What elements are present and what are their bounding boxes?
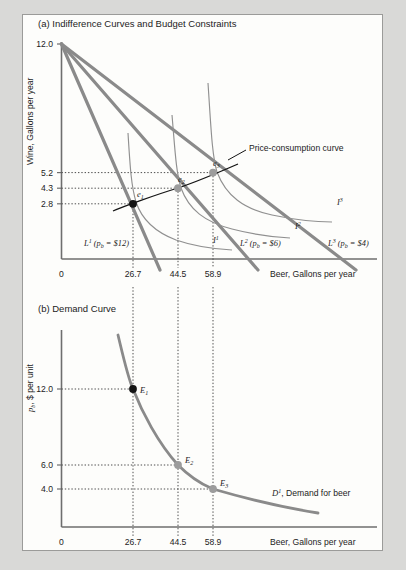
- price-consumption-annotation-leader: [228, 150, 246, 160]
- panel-b: (b) Demand Curve pb, $ per unit 12.0 6.0…: [25, 287, 377, 547]
- panel-a-xtick-label-0: 26.7: [125, 269, 142, 279]
- point-label-E1: E1: [139, 386, 148, 396]
- panel-a: (a) Indifference Curves and Budget Const…: [25, 18, 377, 279]
- point-label-e2: e2: [178, 175, 185, 185]
- panel-a-ytick-label-1: 5.2: [41, 168, 53, 178]
- panel-a-ytick-label-2: 4.3: [41, 183, 53, 193]
- figure-page: (a) Indifference Curves and Budget Const…: [0, 0, 406, 570]
- budget-line-L2: [62, 44, 259, 270]
- point-E3: [209, 485, 217, 493]
- panel-b-xtick-label-1: 44.5: [170, 537, 187, 547]
- price-consumption-annotation: Price-consumption curve: [249, 143, 344, 153]
- panel-b-y-axis-label: pb, $ per unit: [25, 363, 36, 413]
- curve-label-L2: L2 (pb = $6): [239, 238, 281, 249]
- point-e2: [174, 184, 182, 192]
- panel-a-ytick-label-3: 2.8: [41, 199, 53, 209]
- panel-b-ytick-label-2: 4.0: [41, 484, 53, 494]
- point-e1: [129, 200, 137, 208]
- point-E2: [174, 461, 182, 469]
- curve-label-L3: L3 (pb = $4): [327, 238, 369, 249]
- panel-a-xtick-label-1: 44.5: [170, 269, 187, 279]
- panel-a-xtick-label-2: 58.9: [205, 269, 222, 279]
- curve-label-I3: I3: [336, 197, 343, 207]
- panel-a-x-axis-label: Beer, Gallons per year: [270, 269, 356, 279]
- panel-b-ytick-label-1: 6.0: [41, 460, 53, 470]
- curve-label-I1: I1: [212, 235, 219, 245]
- panel-a-ytick-label-0: 12.0: [36, 39, 53, 49]
- panel-b-origin-label: 0: [59, 537, 64, 547]
- point-label-E3: E3: [219, 479, 228, 489]
- budget-line-L1: [62, 44, 161, 270]
- panel-a-origin-label: 0: [59, 269, 64, 279]
- indifference-curve-I2: [172, 115, 290, 238]
- budget-line-L3: [62, 44, 357, 270]
- panel-b-title: (b) Demand Curve: [38, 303, 116, 314]
- panel-b-xtick-label-0: 26.7: [125, 537, 142, 547]
- demand-curve-D1: [118, 335, 318, 513]
- demand-curve-label: D1, Demand for beer: [271, 488, 351, 498]
- panel-b-ytick-label-0: 12.0: [36, 384, 53, 394]
- point-e3: [209, 169, 217, 177]
- panel-a-title: (a) Indifference Curves and Budget Const…: [38, 18, 237, 29]
- curve-label-L1: L1 (pb = $12): [83, 238, 129, 249]
- figure-svg-wrapper: (a) Indifference Curves and Budget Const…: [0, 0, 406, 570]
- point-label-E2: E2: [184, 456, 193, 466]
- panel-a-y-axis-label: Wine, Gallons per year: [25, 77, 35, 165]
- panel-b-x-axis-label: Beer, Gallons per year: [270, 537, 356, 547]
- point-E1: [129, 385, 137, 393]
- point-label-e3: e3: [213, 159, 220, 169]
- panel-b-xtick-label-2: 58.9: [205, 537, 222, 547]
- point-label-e1: e1: [137, 190, 144, 200]
- curve-label-I2: I2: [294, 221, 301, 231]
